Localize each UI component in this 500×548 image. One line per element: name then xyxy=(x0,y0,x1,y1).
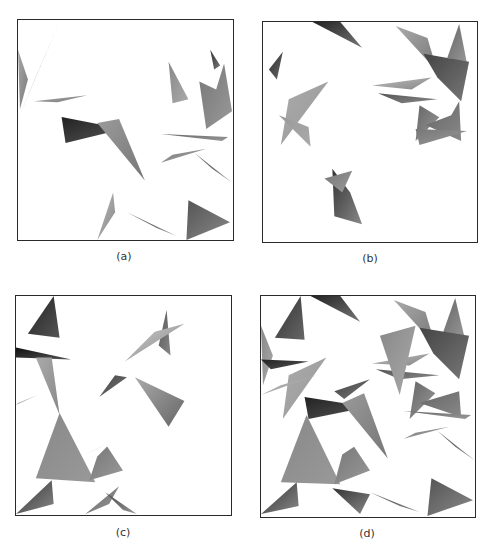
triangle-shape xyxy=(34,95,88,102)
caption-c: (c) xyxy=(103,526,143,539)
caption-d: (d) xyxy=(347,527,387,540)
triangle-shape xyxy=(313,22,363,48)
triangle-shape xyxy=(16,480,54,514)
triangle-shape xyxy=(97,192,115,240)
panel-a-canvas xyxy=(18,20,233,240)
triangle-shape xyxy=(161,134,228,141)
triangle-shape xyxy=(281,415,340,484)
triangle-shape xyxy=(194,153,232,183)
triangle-shape xyxy=(16,395,38,405)
triangle-shape xyxy=(334,447,370,485)
triangle-shape xyxy=(97,119,145,180)
triangle-shape xyxy=(135,377,185,427)
triangle-shape xyxy=(199,64,232,129)
triangle-shape xyxy=(261,326,273,385)
triangle-shape xyxy=(378,93,437,103)
triangle-shape xyxy=(370,492,420,512)
triangle-shape xyxy=(89,447,123,481)
triangle-shape xyxy=(169,62,189,104)
triangle-shape xyxy=(127,212,177,236)
triangle-shape xyxy=(275,296,305,340)
triangle-shape xyxy=(18,50,28,109)
caption-a: (a) xyxy=(104,250,144,263)
triangle-shape xyxy=(427,478,473,516)
triangle-shape xyxy=(210,50,220,70)
panel-d xyxy=(260,295,476,518)
triangle-shape xyxy=(404,411,471,419)
triangle-shape xyxy=(372,78,431,90)
triangle-shape xyxy=(376,369,439,379)
triangle-shape xyxy=(437,431,475,461)
triangle-shape xyxy=(404,427,450,439)
triangle-shape xyxy=(447,24,467,64)
triangle-shape xyxy=(332,488,370,514)
panel-d-canvas xyxy=(261,296,475,517)
triangle-shape xyxy=(311,296,361,322)
triangle-shape xyxy=(28,296,60,338)
triangle-shape xyxy=(420,328,470,380)
triangle-shape xyxy=(342,393,388,458)
triangle-shape xyxy=(424,54,470,102)
triangle-shape xyxy=(269,52,283,80)
triangle-shape xyxy=(261,482,299,514)
panel-c-canvas xyxy=(16,296,231,515)
panel-a xyxy=(17,19,234,241)
panel-b-canvas xyxy=(263,22,477,242)
triangle-shape xyxy=(105,492,137,514)
triangle-shape xyxy=(36,357,60,414)
triangle-shape xyxy=(324,171,352,193)
panel-c xyxy=(15,295,232,516)
triangle-shape xyxy=(36,413,95,482)
triangle-shape xyxy=(161,149,207,163)
triangle-shape xyxy=(186,200,230,240)
caption-b: (b) xyxy=(350,252,390,265)
panel-b xyxy=(262,21,478,243)
triangle-shape xyxy=(125,324,184,362)
triangle-shape xyxy=(99,375,127,397)
